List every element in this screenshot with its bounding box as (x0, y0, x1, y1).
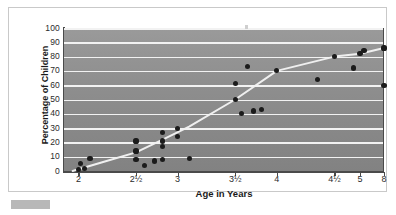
data-point (315, 77, 320, 82)
gridline (64, 42, 383, 44)
y-axis-tick-labels: 1009080706050403020100 (31, 8, 60, 215)
y-tick-label: 70 (50, 65, 60, 75)
data-point (187, 156, 192, 161)
gridline (64, 128, 383, 130)
gridline (64, 157, 383, 159)
data-point (175, 126, 180, 131)
data-point (142, 163, 147, 168)
gridline (64, 142, 383, 144)
x-tick-label: 3½ (229, 174, 242, 184)
data-point (87, 156, 92, 161)
y-tick-label: 10 (50, 151, 60, 161)
y-tick-label: 40 (50, 108, 60, 118)
y-tick-label: 20 (50, 137, 60, 147)
figure: Percentage of Children 10090807060504030… (0, 0, 396, 215)
data-point (133, 157, 138, 162)
y-tick-label: 0 (55, 166, 60, 176)
data-point (251, 108, 256, 113)
gridline (64, 85, 383, 87)
x-tick-label: 2 (76, 174, 81, 184)
gridline (64, 100, 383, 102)
x-axis-label: Age in Years (64, 188, 384, 199)
y-tick-label: 30 (50, 123, 60, 133)
chart-frame: Percentage of Children 10090807060504030… (8, 7, 387, 192)
x-tick-label: 3 (175, 174, 180, 184)
x-tick-label: 2½ (130, 174, 143, 184)
top-artifact-mark (245, 25, 248, 29)
gridline (64, 28, 383, 30)
y-tick-label: 60 (50, 80, 60, 90)
x-tick-label: 8 (381, 174, 386, 184)
gridline (64, 114, 383, 116)
data-point (233, 97, 238, 102)
data-point (152, 158, 157, 163)
data-point (381, 45, 386, 50)
data-point (160, 138, 165, 143)
caption-swatch (11, 200, 50, 209)
x-tick-label: 5 (357, 174, 362, 184)
y-tick-label: 100 (45, 23, 60, 33)
data-point (82, 166, 87, 171)
data-point (381, 83, 386, 88)
x-tick-label: 4½ (328, 174, 341, 184)
y-tick-label: 50 (50, 94, 60, 104)
x-axis-line (63, 171, 384, 173)
gridline (64, 71, 383, 73)
y-tick-label: 80 (50, 51, 60, 61)
x-tick-label: 4 (274, 174, 279, 184)
plot-area (64, 28, 384, 171)
data-point (133, 138, 138, 143)
data-point (133, 148, 138, 153)
y-tick-label: 90 (50, 37, 60, 47)
